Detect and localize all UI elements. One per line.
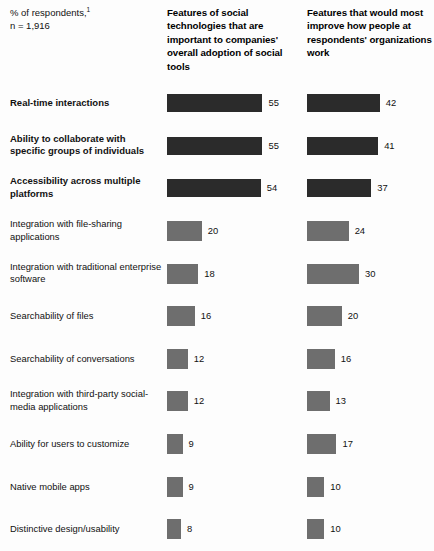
bar-cell-importance: 54 — [167, 179, 277, 197]
bar — [307, 137, 378, 155]
chart-row: Real-time interactions5542 — [0, 82, 434, 125]
bar — [167, 519, 181, 539]
bar-cell-importance: 12 — [167, 391, 204, 411]
bar-cell-importance: 18 — [167, 264, 215, 284]
bar-cell-improvement: 30 — [307, 264, 375, 284]
bar-cell-improvement: 13 — [307, 391, 346, 411]
chart-row: Native mobile apps910 — [0, 465, 434, 508]
bar-value-label: 20 — [208, 226, 218, 236]
bar-value-label: 30 — [365, 269, 375, 279]
bar-value-label: 18 — [204, 269, 214, 279]
row-label: Native mobile apps — [10, 480, 162, 493]
bar — [307, 179, 371, 197]
bar-value-label: 16 — [341, 354, 351, 364]
chart-row: Searchability of files1620 — [0, 295, 434, 338]
row-label: Accessibility across multiple platforms — [10, 176, 162, 201]
bar-value-label: 9 — [189, 482, 194, 492]
bar-cell-importance: 16 — [167, 306, 211, 326]
chart-row: Ability to collaborate with specific gro… — [0, 125, 434, 168]
chart-row: Ability for users to customize917 — [0, 423, 434, 466]
row-label: Integration with third-party social-medi… — [10, 389, 162, 414]
row-label: Searchability of files — [10, 310, 162, 323]
sample-size-label: n = 1,916 — [10, 20, 50, 31]
bar-cell-improvement: 10 — [307, 477, 341, 497]
footnote-marker: 1 — [87, 6, 91, 13]
chart-row: Accessibility across multiple platforms5… — [0, 167, 434, 210]
bar-cell-importance: 9 — [167, 477, 194, 497]
respondents-note: % of respondents,1 n = 1,916 — [10, 6, 160, 32]
chart-row: Integration with traditional enterprise … — [0, 252, 434, 295]
bar — [167, 179, 261, 197]
bar-value-label: 9 — [189, 439, 194, 449]
bar-value-label: 17 — [342, 439, 352, 449]
bar-chart-figure: % of respondents,1 n = 1,916 Features of… — [0, 0, 434, 551]
bar-cell-importance: 55 — [167, 137, 279, 155]
bar-value-label: 24 — [355, 226, 365, 236]
bar-cell-improvement: 17 — [307, 434, 353, 454]
bar-cell-improvement: 24 — [307, 221, 365, 241]
bar-cell-improvement: 41 — [307, 137, 395, 155]
row-label: Integration with traditional enterprise … — [10, 261, 162, 286]
bar — [167, 306, 195, 326]
bar — [307, 349, 335, 369]
bar — [167, 434, 183, 454]
bar-cell-importance: 12 — [167, 349, 204, 369]
bar — [167, 477, 183, 497]
bar-cell-improvement: 42 — [307, 94, 396, 112]
bar-cell-improvement: 20 — [307, 306, 358, 326]
bar-value-label: 13 — [336, 396, 346, 406]
chart-row: Integration with file-sharing applicatio… — [0, 210, 434, 253]
bar-cell-improvement: 37 — [307, 179, 388, 197]
bar-value-label: 41 — [384, 141, 394, 151]
bar-value-label: 55 — [268, 98, 278, 108]
bar-value-label: 10 — [330, 482, 340, 492]
chart-row: Distinctive design/usability810 — [0, 508, 434, 551]
row-label: Ability for users to customize — [10, 438, 162, 451]
bar-cell-importance: 8 — [167, 519, 192, 539]
chart-rows: Real-time interactions5542Ability to col… — [0, 82, 434, 551]
row-label: Real-time interactions — [10, 97, 162, 110]
bar — [307, 391, 330, 411]
respondents-label: % of respondents, — [10, 7, 87, 18]
bar — [307, 306, 342, 326]
bar — [307, 519, 324, 539]
column-header-improvement: Features that would most improve how peo… — [307, 6, 432, 60]
bar — [167, 221, 202, 241]
bar — [307, 94, 380, 112]
bar-cell-importance: 55 — [167, 94, 279, 112]
bar-value-label: 12 — [194, 354, 204, 364]
bar — [307, 221, 349, 241]
column-header-importance: Features of social technologies that are… — [167, 6, 295, 73]
bar-value-label: 55 — [268, 141, 278, 151]
bar — [167, 391, 188, 411]
bar-value-label: 37 — [377, 183, 387, 193]
bar — [167, 264, 198, 284]
bar-value-label: 16 — [201, 311, 211, 321]
bar — [307, 477, 324, 497]
bar — [307, 434, 336, 454]
bar-value-label: 54 — [267, 183, 277, 193]
bar — [167, 137, 262, 155]
bar-cell-importance: 20 — [167, 221, 218, 241]
chart-header: % of respondents,1 n = 1,916 Features of… — [0, 0, 434, 82]
bar-cell-importance: 9 — [167, 434, 194, 454]
bar-cell-improvement: 16 — [307, 349, 351, 369]
bar-value-label: 42 — [386, 98, 396, 108]
row-label: Distinctive design/usability — [10, 523, 162, 536]
bar-value-label: 8 — [187, 524, 192, 534]
bar-value-label: 12 — [194, 396, 204, 406]
row-label: Ability to collaborate with specific gro… — [10, 133, 162, 158]
chart-row: Integration with third-party social-medi… — [0, 380, 434, 423]
bar — [167, 94, 262, 112]
chart-row: Searchability of conversations1216 — [0, 338, 434, 381]
row-label: Searchability of conversations — [10, 353, 162, 366]
row-label: Integration with file-sharing applicatio… — [10, 218, 162, 243]
bar — [167, 349, 188, 369]
bar-value-label: 10 — [330, 524, 340, 534]
bar-cell-improvement: 10 — [307, 519, 341, 539]
bar-value-label: 20 — [348, 311, 358, 321]
bar — [307, 264, 359, 284]
